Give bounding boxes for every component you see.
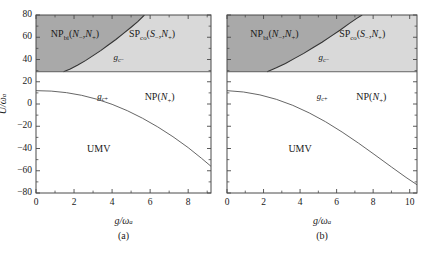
y-tick-label: −20 <box>17 122 32 132</box>
y-tick-label: 20 <box>23 77 33 87</box>
x-tick-label: 4 <box>110 198 115 208</box>
curve-label-g-c-minus: gc− <box>113 53 124 64</box>
x-tick-label: 4 <box>298 198 303 208</box>
y-axis-label: U/ωa <box>0 94 8 114</box>
region-label-np: NP(N+) <box>356 92 386 105</box>
region-label-np-bi: NPbi(N−,N+) <box>250 29 298 42</box>
phase-diagram-figure: −80−60−40−20020406080U/ωa02468g/ωa(a)NPb… <box>0 0 431 253</box>
x-tick-label: 2 <box>261 198 266 208</box>
y-tick-label: −60 <box>17 166 32 176</box>
curve-label-g-c-minus: gc− <box>318 53 329 64</box>
region-label-umv: UMV <box>87 144 110 154</box>
curve-label-g-c-plus: gc+ <box>317 92 328 103</box>
y-tick-label: −80 <box>17 188 32 198</box>
x-tick-label: 0 <box>225 198 230 208</box>
region-label-umv: UMV <box>288 144 311 154</box>
x-axis-label: g/ωa <box>313 215 331 226</box>
y-tick-label: 40 <box>23 55 33 65</box>
y-tick-label: 60 <box>23 33 33 43</box>
x-tick-label: 8 <box>186 198 191 208</box>
plot-panel-a: −80−60−40−20020406080U/ωa02468g/ωa(a)NPb… <box>0 0 215 253</box>
x-tick-label: 8 <box>371 198 376 208</box>
y-tick-label: −40 <box>17 144 32 154</box>
region-label-np: NP(N+) <box>145 92 175 105</box>
region-label-np-bi: NPbi(N−,N+) <box>51 29 99 42</box>
region-label-sp-co: SPco(S−,N+) <box>129 29 175 42</box>
region-label-sp-co: SPco(S−,N+) <box>339 29 385 42</box>
x-tick-label: 0 <box>34 198 39 208</box>
x-tick-label: 2 <box>72 198 77 208</box>
x-tick-label: 10 <box>405 198 415 208</box>
panel-caption: (a) <box>118 230 129 241</box>
curve-label-g-c-plus: gc+ <box>97 92 108 103</box>
x-tick-label: 6 <box>148 198 153 208</box>
x-tick-label: 6 <box>334 198 339 208</box>
y-tick-label: 80 <box>23 10 33 20</box>
panel-caption: (b) <box>316 230 328 241</box>
y-tick-label: 0 <box>27 99 32 109</box>
plot-panel-b: 0246810g/ωa(b)NPbi(N−,N+)SPco(S−,N+)NP(N… <box>215 0 430 253</box>
x-axis-label: g/ωa <box>114 215 132 226</box>
